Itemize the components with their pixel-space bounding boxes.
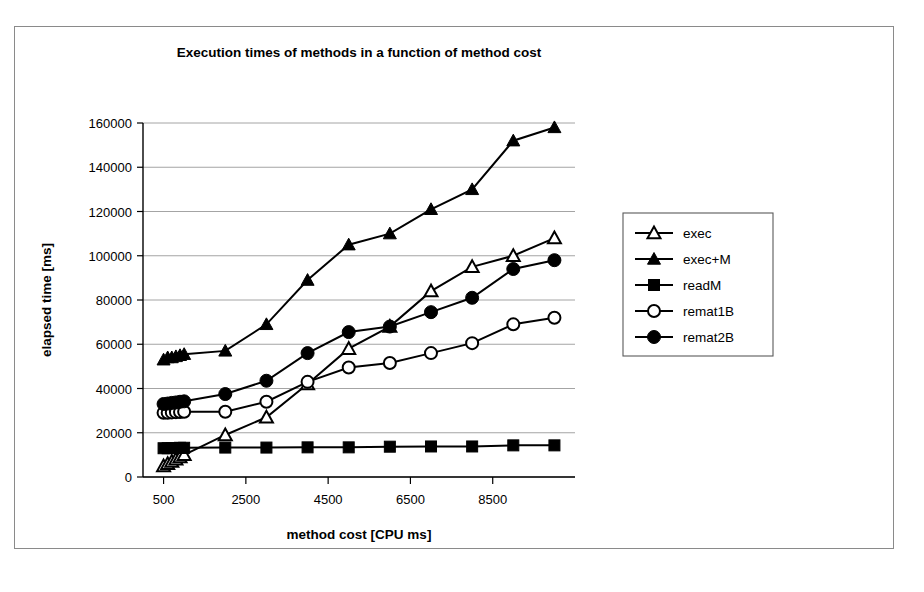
legend-label-readM: readM [683,278,721,293]
legend-marker-readM [649,280,660,291]
marker-remat2B-5 [178,395,191,408]
marker-readM-8 [302,442,313,453]
x-tick-label-4500: 4500 [314,492,343,507]
y-tick-label-160000: 160000 [89,116,132,131]
marker-exec+M-6 [219,344,232,356]
legend-label-exec: exec [683,226,712,241]
y-tick-label-60000: 60000 [96,337,132,352]
y-tick-label-0: 0 [125,470,132,485]
marker-remat1B-12 [466,337,478,349]
marker-remat1B-13 [507,318,519,330]
legend-label-remat1B: remat1B [683,304,734,319]
marker-readM-14 [549,440,560,451]
y-tick-label-20000: 20000 [96,426,132,441]
marker-exec-6 [219,428,232,440]
marker-readM-6 [220,442,231,453]
marker-readM-7 [261,442,272,453]
legend-label-remat2B: remat2B [683,330,734,345]
marker-readM-11 [426,441,437,452]
marker-remat2B-11 [425,306,438,319]
marker-remat2B-9 [342,326,355,339]
marker-remat2B-14 [548,254,561,267]
y-tick-label-80000: 80000 [96,293,132,308]
legend-label-exec+M: exec+M [683,252,731,267]
series-line-exec+M [164,127,555,359]
marker-exec+M-11 [425,203,438,215]
marker-remat1B-9 [343,361,355,373]
marker-remat2B-6 [219,388,232,401]
chart-figure-frame: Execution times of methods in a function… [14,26,894,549]
marker-readM-12 [467,441,478,452]
marker-remat2B-7 [260,374,273,387]
marker-exec+M-10 [383,227,396,239]
marker-remat2B-12 [466,291,479,304]
x-axis-title: method cost [CPU ms] [287,527,432,542]
y-tick-label-40000: 40000 [96,382,132,397]
marker-remat1B-10 [384,357,396,369]
marker-remat1B-7 [260,396,272,408]
marker-remat1B-8 [302,376,314,388]
x-tick-label-2500: 2500 [231,492,260,507]
legend-marker-remat1B [648,305,660,317]
y-axis-title: elapsed time [ms] [39,243,54,357]
y-tick-label-140000: 140000 [89,160,132,175]
marker-remat1B-14 [548,312,560,324]
x-tick-label-8500: 8500 [478,492,507,507]
marker-exec-11 [425,285,438,297]
marker-readM-5 [179,442,190,453]
marker-exec-13 [507,249,520,261]
marker-readM-9 [343,442,354,453]
marker-readM-13 [508,440,519,451]
y-tick-label-100000: 100000 [89,249,132,264]
chart-title: Execution times of methods in a function… [177,45,542,60]
marker-readM-10 [384,441,395,452]
marker-remat2B-13 [507,263,520,276]
x-tick-label-6500: 6500 [396,492,425,507]
y-tick-label-120000: 120000 [89,205,132,220]
chart-canvas: Execution times of methods in a function… [15,27,893,548]
marker-exec-14 [548,232,561,244]
marker-remat2B-8 [301,347,314,360]
marker-remat1B-6 [219,406,231,418]
x-tick-label-500: 500 [153,492,175,507]
marker-remat1B-11 [425,347,437,359]
marker-remat2B-10 [383,320,396,333]
legend-marker-remat2B [648,331,661,344]
